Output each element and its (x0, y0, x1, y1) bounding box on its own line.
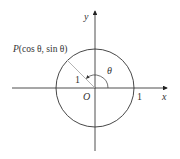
angle-arc (87, 75, 109, 88)
radius-label: 1 (75, 74, 80, 85)
origin-label: O (83, 91, 90, 102)
unit-circle-diagram: y x O 1 1 θ P(cos θ, sin θ) (0, 0, 180, 159)
point-label: P(cos θ, sin θ) (12, 44, 68, 55)
point-coords: (cos θ, sin θ) (19, 44, 68, 55)
x-intercept-label: 1 (137, 91, 142, 102)
y-axis-label: y (83, 11, 89, 22)
radius-line (67, 60, 95, 88)
x-axis-label: x (161, 91, 167, 102)
angle-label: θ (107, 65, 112, 76)
